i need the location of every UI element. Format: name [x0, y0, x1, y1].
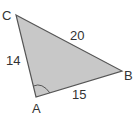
triangle-diagram: C B A 20 14 15	[0, 0, 139, 120]
side-label-cb: 20	[70, 28, 84, 43]
vertex-label-a: A	[32, 101, 41, 116]
vertex-label-b: B	[124, 68, 133, 83]
side-label-ca: 14	[6, 53, 20, 68]
vertex-label-c: C	[2, 8, 11, 23]
triangle-abc	[16, 15, 122, 97]
side-label-ab: 15	[72, 87, 86, 102]
